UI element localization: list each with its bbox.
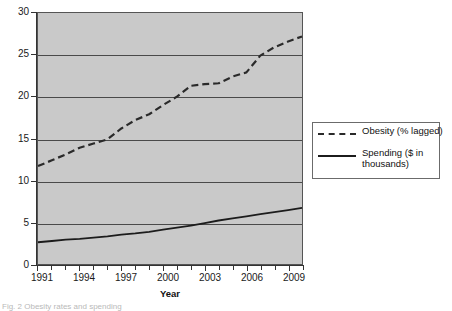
x-axis-tick-minor: [275, 266, 276, 270]
series-line: [38, 208, 302, 242]
y-axis-tick: [31, 96, 37, 97]
x-axis-tick-minor: [219, 266, 220, 270]
legend-label-obesity: Obesity (% lagged): [362, 126, 444, 137]
x-axis-tick-minor: [51, 266, 52, 270]
x-axis-tick-minor: [65, 266, 66, 270]
x-axis-tick-minor: [93, 266, 94, 270]
x-axis-tick-major: [79, 266, 80, 271]
x-axis-tick-label: 1991: [22, 272, 62, 283]
y-axis-tick-label: 15: [1, 134, 29, 144]
x-axis-tick-major: [289, 266, 290, 271]
y-axis-tick-label: 25: [1, 49, 29, 59]
y-axis-tick: [31, 12, 37, 13]
x-axis-title: Year: [37, 288, 303, 299]
y-axis-tick: [31, 54, 37, 55]
figure-caption: Fig. 2 Obesity rates and spending: [2, 302, 302, 311]
x-axis-tick-minor: [177, 266, 178, 270]
x-axis-tick-major: [37, 266, 38, 271]
x-axis-line: [37, 265, 304, 266]
x-axis-tick-major: [205, 266, 206, 271]
x-axis-tick-minor: [191, 266, 192, 270]
series-line: [38, 36, 302, 166]
x-axis-tick-label: 2003: [190, 272, 230, 283]
y-axis-tick: [31, 139, 37, 140]
y-axis-tick-label: 10: [1, 176, 29, 186]
x-axis-tick-minor: [135, 266, 136, 270]
y-axis-tick-label: 0: [1, 260, 29, 270]
x-axis-tick-minor: [107, 266, 108, 270]
y-axis-tick-label: 5: [1, 218, 29, 228]
y-axis-tick: [31, 181, 37, 182]
legend-label-spending: Spending ($ in thousands): [362, 148, 444, 169]
x-axis-tick-label: 2009: [274, 272, 314, 283]
y-axis-tick-label: 20: [1, 91, 29, 101]
figure-container: 051015202530 199119941997200020032006200…: [0, 0, 452, 311]
x-axis-tick-major: [247, 266, 248, 271]
x-axis-tick-label: 1994: [64, 272, 104, 283]
y-axis-tick-label: 30: [1, 7, 29, 17]
x-axis-tick-minor: [261, 266, 262, 270]
x-axis-tick-label: 2000: [148, 272, 188, 283]
y-axis-tick: [31, 223, 37, 224]
solid-line-swatch: [318, 155, 356, 157]
x-axis-tick-minor: [303, 266, 304, 270]
plot-area: [37, 12, 303, 265]
dashed-line-swatch: [318, 133, 356, 135]
chart-legend: Obesity (% lagged) Spending ($ in thousa…: [312, 122, 440, 179]
x-axis-tick-minor: [149, 266, 150, 270]
plot-lines: [38, 13, 302, 264]
x-axis-tick-major: [163, 266, 164, 271]
x-axis-tick-major: [121, 266, 122, 271]
x-axis-tick-minor: [233, 266, 234, 270]
x-axis-tick-label: 2006: [232, 272, 272, 283]
x-axis-tick-label: 1997: [106, 272, 146, 283]
